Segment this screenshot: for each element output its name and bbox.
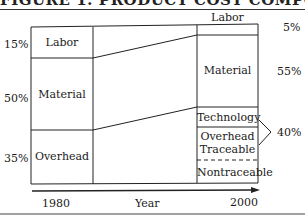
axis-start-label: 1980 <box>42 197 70 210</box>
right-group-percent: 40% <box>277 126 301 139</box>
right-overhead-traceable-line1: Overhead <box>197 130 258 143</box>
left-overhead-percent: 35% <box>4 152 28 165</box>
left-labor-percent: 15% <box>4 38 28 51</box>
right-technology-label: Technology <box>197 111 258 124</box>
axis-title: Year <box>135 197 160 210</box>
left-material-percent: 50% <box>4 92 28 105</box>
right-nontraceable-label: Nontraceable <box>197 166 258 179</box>
right-material-label: Material <box>197 64 258 77</box>
axis-end-label: 2000 <box>230 196 258 209</box>
right-overhead-traceable-line2: Traceable <box>197 143 258 156</box>
left-overhead-label: Overhead <box>31 150 93 163</box>
right-material-percent: 55% <box>277 65 301 78</box>
left-labor-label: Labor <box>31 36 93 49</box>
right-labor-percent: 5% <box>283 21 300 34</box>
diagram-lines <box>0 0 305 216</box>
left-material-label: Material <box>31 88 93 101</box>
right-labor-label: Labor <box>197 11 258 24</box>
